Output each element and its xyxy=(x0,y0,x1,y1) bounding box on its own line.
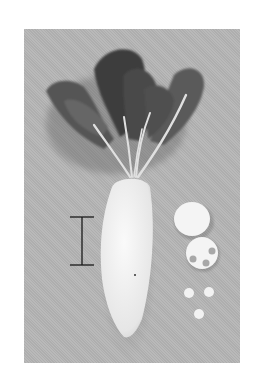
scale-bar xyxy=(70,217,94,265)
hole xyxy=(190,256,197,263)
radish-illustration xyxy=(24,29,240,363)
whole-slice xyxy=(174,202,214,240)
root-spot xyxy=(134,274,136,276)
small-discs xyxy=(184,287,214,319)
photograph xyxy=(24,29,240,363)
hole xyxy=(209,248,216,255)
hole xyxy=(203,260,210,267)
slice-with-holes xyxy=(186,237,220,272)
